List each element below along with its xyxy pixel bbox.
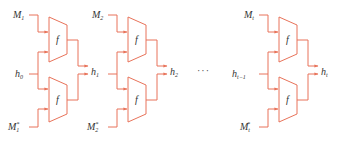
hidden-to-top-2 — [117, 52, 127, 74]
recurrent-diagram: M1 h0 M1* h1 M2 M2* h2 ··· Mt ht−1 Mt* h… — [0, 0, 338, 143]
function-label-top-1: f — [56, 35, 59, 45]
ellipsis: ··· — [197, 65, 210, 76]
function-label-top-t: f — [286, 35, 289, 45]
input-bottom-line-2 — [108, 109, 127, 127]
input-bottom-line-1 — [29, 109, 48, 127]
function-label-top-2: f — [135, 35, 138, 45]
function-label-bottom-t: f — [286, 95, 289, 105]
label-input-top-2: M2 — [92, 10, 103, 20]
hidden-to-bottom-2 — [117, 74, 127, 89]
hidden-to-top-3 — [268, 52, 278, 74]
label-input-bottom-1: M1* — [8, 122, 19, 132]
input-top-line-1 — [29, 15, 48, 32]
output-top-line-3 — [297, 40, 318, 66]
function-label-bottom-1: f — [56, 95, 59, 105]
output-bottom-line-1 — [67, 74, 88, 100]
label-hidden-out-t: ht — [321, 67, 328, 77]
output-bottom-line-2 — [146, 74, 167, 100]
label-input-bottom-t: Mt* — [240, 122, 250, 132]
label-hidden-out-2: h2 — [170, 67, 178, 77]
output-top-line-2 — [146, 40, 167, 66]
hidden-to-bottom-3 — [268, 74, 278, 89]
diagram-canvas — [0, 0, 338, 143]
input-top-line-3 — [259, 15, 278, 32]
hidden-to-top-1 — [38, 52, 48, 74]
input-top-line-2 — [108, 15, 127, 32]
output-bottom-line-3 — [297, 74, 318, 100]
label-hidden-out-1: h1 — [91, 67, 99, 77]
function-label-bottom-2: f — [135, 95, 138, 105]
label-input-bottom-2: M2* — [87, 122, 98, 132]
label-hidden-in-t: ht−1 — [232, 69, 246, 79]
label-input-top-t: Mt — [244, 10, 254, 20]
label-input-top-1: M1 — [13, 10, 24, 20]
output-top-line-1 — [67, 40, 88, 66]
label-hidden-in-1: h0 — [15, 69, 23, 79]
input-bottom-line-3 — [259, 109, 278, 127]
hidden-to-bottom-1 — [38, 74, 48, 89]
